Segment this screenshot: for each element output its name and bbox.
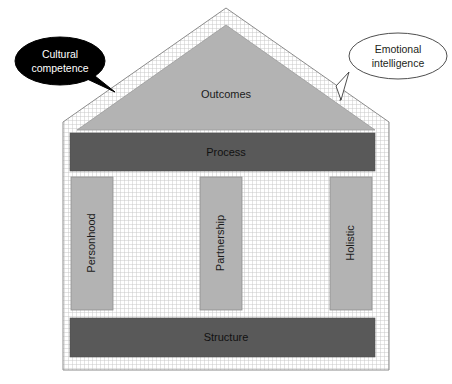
house-model-diagram: Outcomes Process Personhood Partnership …: [0, 0, 452, 384]
structure-label: Structure: [204, 331, 249, 343]
process-band-group: Process: [70, 133, 375, 171]
holistic-label: Holistic: [344, 225, 356, 261]
cultural-competence-line1: Cultural: [42, 48, 78, 60]
emotional-intelligence-bubble: [349, 33, 447, 79]
roof-label: Outcomes: [201, 88, 252, 100]
column-partnership: Partnership: [200, 177, 242, 310]
personhood-label: Personhood: [85, 213, 97, 272]
emotional-intelligence-line1: Emotional: [375, 43, 422, 55]
diagram-canvas: Outcomes Process Personhood Partnership …: [0, 0, 452, 384]
cultural-competence-line2: competence: [31, 62, 88, 74]
process-label: Process: [206, 146, 246, 158]
emotional-intelligence-line2: intelligence: [372, 57, 425, 69]
callout-cultural-competence[interactable]: Cultural competence: [15, 37, 115, 92]
cultural-competence-bubble: [15, 37, 105, 85]
roof-group: Outcomes: [77, 25, 375, 130]
callout-emotional-intelligence[interactable]: Emotional intelligence: [336, 33, 447, 101]
column-holistic: Holistic: [330, 177, 372, 310]
structure-band-group: Structure: [70, 318, 375, 357]
partnership-label: Partnership: [214, 215, 226, 271]
column-personhood: Personhood: [71, 177, 113, 310]
roof-triangle: [77, 25, 375, 130]
